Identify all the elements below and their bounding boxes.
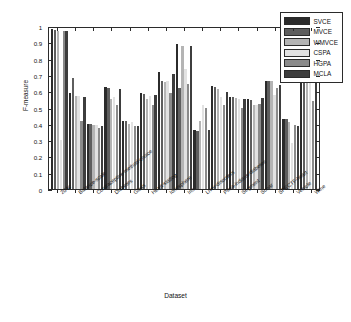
y-tick-mark — [48, 43, 52, 44]
x-tick-mark — [166, 28, 167, 31]
y-tick-mark — [316, 27, 320, 28]
x-tick-mark — [166, 190, 167, 193]
x-tick-mark — [275, 28, 276, 31]
x-tick-mark — [220, 28, 221, 31]
x-tick-mark — [202, 190, 203, 193]
bar — [315, 78, 317, 189]
y-tick-mark — [48, 92, 52, 93]
x-tick-mark — [257, 28, 258, 31]
legend-label: HGPA — [314, 60, 332, 67]
y-tick-mark — [48, 109, 52, 110]
bar — [65, 31, 67, 189]
bar-group — [193, 28, 210, 189]
bar-group — [140, 28, 157, 189]
legend-swatch — [284, 28, 310, 36]
y-tick-mark — [316, 125, 320, 126]
x-tick-mark — [184, 28, 185, 31]
x-tick-mark — [130, 190, 131, 193]
legend-item: HGPA — [284, 58, 339, 69]
bar-groups — [49, 28, 319, 189]
y-tick-mark — [316, 190, 320, 191]
y-tick-mark — [316, 109, 320, 110]
bar-group — [104, 28, 121, 189]
x-tick-mark — [311, 28, 312, 31]
bar — [261, 98, 263, 189]
x-tick-mark — [93, 28, 94, 31]
y-tick-label: 0.7 — [34, 72, 42, 79]
y-tick-mark — [48, 60, 52, 61]
bar-group — [87, 28, 104, 189]
y-tick-mark — [316, 43, 320, 44]
x-tick-mark — [238, 28, 239, 31]
y-tick-label: 0.9 — [34, 40, 42, 47]
y-tick-mark — [316, 76, 320, 77]
bar-group — [158, 28, 175, 189]
y-tick-label: 0.1 — [34, 170, 42, 177]
legend-swatch — [284, 38, 310, 46]
x-tick-mark — [75, 190, 76, 193]
y-tick-label: 1 — [39, 24, 42, 31]
y-tick-label: 0.2 — [34, 154, 42, 161]
y-tick-label: 0 — [39, 187, 42, 194]
bar — [208, 130, 210, 189]
y-tick-mark — [316, 92, 320, 93]
legend-label: SVCE — [314, 18, 331, 25]
y-tick-mark — [316, 174, 320, 175]
legend-swatch — [284, 49, 310, 57]
bar — [101, 126, 103, 189]
y-tick-mark — [48, 76, 52, 77]
y-tick-label: 0.3 — [34, 138, 42, 145]
x-tick-mark — [75, 28, 76, 31]
x-tick-mark — [148, 28, 149, 31]
legend-item: MCLA — [284, 69, 339, 80]
legend-label: WMVCE — [314, 39, 339, 46]
y-tick-mark — [48, 157, 52, 158]
y-tick-mark — [316, 141, 320, 142]
x-tick-mark — [257, 190, 258, 193]
legend-item: CSPA — [284, 48, 339, 59]
y-tick-mark — [48, 174, 52, 175]
x-tick-mark — [130, 28, 131, 31]
x-tick-mark — [311, 190, 312, 193]
y-tick-mark — [48, 190, 52, 191]
bar-group — [211, 28, 228, 189]
bar — [83, 97, 85, 189]
x-tick-mark — [148, 190, 149, 193]
y-tick-label: 0.8 — [34, 56, 42, 63]
y-tick-label: 0.5 — [34, 105, 42, 112]
y-tick-mark — [316, 157, 320, 158]
bar — [154, 95, 156, 189]
legend-item: SVCE — [284, 16, 339, 27]
x-tick-mark — [57, 190, 58, 193]
x-tick-mark — [184, 190, 185, 193]
y-tick-mark — [316, 60, 320, 61]
x-tick-mark — [293, 190, 294, 193]
y-tick-label: 0.4 — [34, 121, 42, 128]
bar — [279, 85, 281, 189]
y-axis-tick-labels: 00.10.20.30.40.50.60.70.80.91 — [0, 27, 46, 190]
x-tick-mark — [57, 28, 58, 31]
bar-group — [176, 28, 193, 189]
bar-group — [51, 28, 68, 189]
legend-swatch — [284, 59, 310, 67]
figure: F-measure 00.10.20.30.40.50.60.70.80.91 … — [0, 0, 351, 322]
x-tick-mark — [293, 28, 294, 31]
y-tick-mark — [48, 27, 52, 28]
x-tick-mark — [202, 28, 203, 31]
legend-swatch — [284, 70, 310, 78]
bar — [190, 46, 192, 189]
x-axis-tick-labels: 2d4cBalance-scaleContraceptive-method-ch… — [48, 191, 320, 251]
legend-label: MVCE — [314, 28, 332, 35]
y-tick-mark — [48, 125, 52, 126]
legend-swatch — [284, 17, 310, 25]
legend-label: CSPA — [314, 49, 331, 56]
x-tick-mark — [111, 28, 112, 31]
x-tick-mark — [238, 190, 239, 193]
x-tick-mark — [220, 190, 221, 193]
x-tick-mark — [111, 190, 112, 193]
y-tick-mark — [48, 141, 52, 142]
bar-group — [229, 28, 246, 189]
x-axis-label: Dataset — [0, 292, 351, 299]
legend-item: WMVCE — [284, 37, 339, 48]
y-tick-label: 0.6 — [34, 89, 42, 96]
